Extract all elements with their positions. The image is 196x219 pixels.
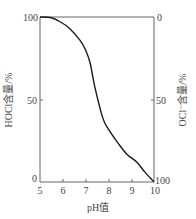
x-tick-label: 5 bbox=[38, 185, 43, 196]
x-tick-label: 6 bbox=[61, 185, 66, 196]
plot-frame bbox=[40, 17, 154, 182]
y-right-tick-label: 100 bbox=[155, 175, 170, 186]
x-tick-label: 9 bbox=[130, 185, 135, 196]
chart: 5 6 7 8 9 10 100 50 0 0 50 100 pH值 HOCl含… bbox=[0, 0, 196, 219]
x-tick-label: 7 bbox=[84, 185, 89, 196]
y-left-tick-label: 0 bbox=[32, 173, 37, 184]
x-tick-label: 10 bbox=[150, 185, 160, 196]
y-right-tick-label: 50 bbox=[156, 95, 166, 106]
y-right-tick-label: 0 bbox=[157, 12, 162, 23]
y-left-tick-label: 50 bbox=[27, 95, 37, 106]
y-left-tick-label: 100 bbox=[23, 12, 38, 23]
x-tick-label: 8 bbox=[107, 185, 112, 196]
hocl-curve bbox=[40, 17, 154, 182]
x-axis-title: pH值 bbox=[87, 201, 109, 213]
y-left-axis-title: HOCl含量/% bbox=[2, 73, 14, 128]
y-right-axis-title: OCl⁻含量/% bbox=[176, 74, 188, 127]
